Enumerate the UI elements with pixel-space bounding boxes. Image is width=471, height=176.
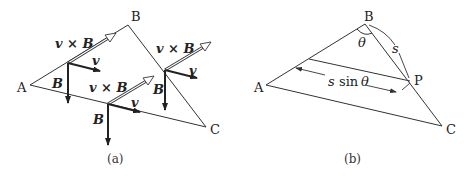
- figure: A B C v × B v B v × B: [0, 0, 471, 176]
- v-cross-b-label: v × B: [89, 80, 128, 95]
- vertex-c-label: C: [446, 122, 456, 137]
- point-p-label: P: [414, 73, 423, 88]
- b-label: B: [92, 112, 104, 127]
- v-label: v: [92, 53, 100, 68]
- angle-theta-label: θ: [358, 35, 366, 50]
- distance-s-label: s: [328, 74, 335, 89]
- vector-group-right: v × B v B: [152, 41, 211, 110]
- distance-theta-label: θ: [361, 74, 369, 89]
- b-label: B: [152, 82, 164, 97]
- panel-b: θ s s sin θ A B C P (b): [253, 9, 456, 166]
- v-label: v: [189, 63, 197, 78]
- v-cross-b-label: v × B: [156, 41, 195, 56]
- distance-sin-label: sin: [339, 74, 359, 89]
- arc-s-label: s: [392, 41, 399, 56]
- vertex-b-label: B: [131, 9, 141, 24]
- vector-group-middle: v × B v B: [89, 76, 154, 145]
- vertex-a-label: A: [16, 80, 27, 95]
- vertex-c-label: C: [210, 122, 220, 137]
- perp-tick: [402, 83, 410, 90]
- vertex-b-label: B: [364, 9, 374, 24]
- vertex-a-label: A: [253, 80, 264, 95]
- parallel-line: [309, 59, 410, 81]
- v-label: v: [131, 95, 139, 110]
- dimension-arrow-left: [296, 68, 325, 75]
- dimension-arrow-right: [365, 85, 396, 92]
- caption-a: (a): [107, 152, 124, 166]
- arc-s-lower: [399, 53, 409, 78]
- v-cross-b-label: v × B: [55, 36, 94, 51]
- caption-b: (b): [344, 152, 361, 166]
- b-label: B: [51, 76, 63, 91]
- panel-a: A B C v × B v B v × B: [16, 9, 220, 166]
